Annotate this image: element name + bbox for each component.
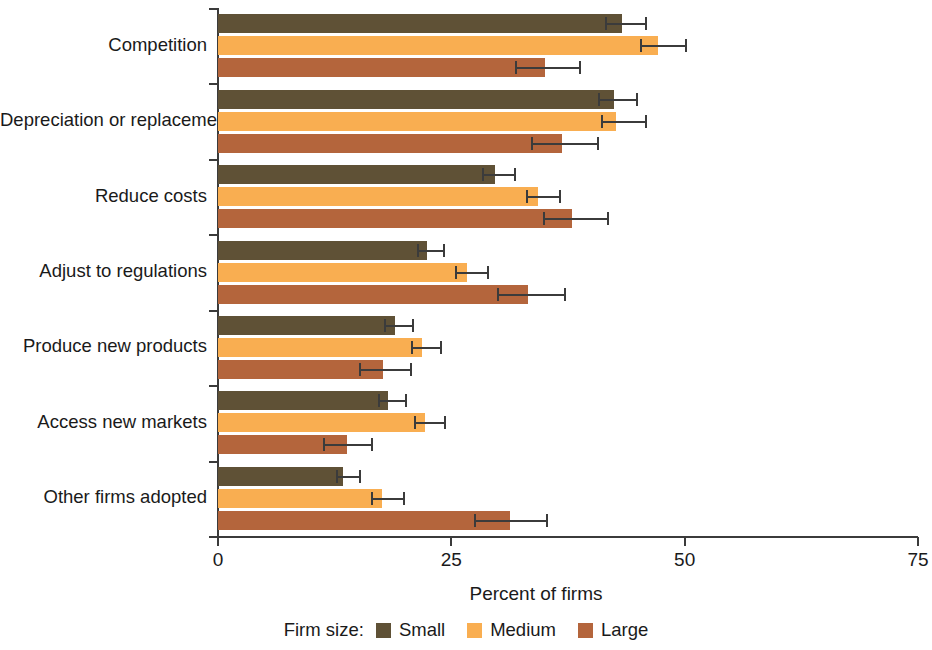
legend-item-large: Large [578,619,648,641]
bar-large [218,134,562,153]
error-bar-cap-high [579,61,581,74]
bar-medium [218,338,422,357]
category-label: Access new markets [0,411,207,433]
bar-large [218,209,572,228]
x-axis-tick-label: 50 [674,549,695,571]
error-bar-cap-high [405,394,407,407]
legend-swatch-medium [467,623,482,638]
x-axis-tick [450,537,452,546]
legend-title: Firm size: [284,619,364,641]
y-axis-tick [209,234,218,236]
bar-chart-figure: CompetitionDepreciation or replacementRe… [0,0,932,650]
error-bar-cap-high [410,363,412,376]
x-axis-tick [917,537,919,546]
error-bar-cap-high [487,266,489,279]
error-bar-cap-high [607,212,609,225]
category-label: Other firms adopted [0,486,207,508]
x-axis-tick [217,537,219,546]
error-bar-cap-high [359,470,361,483]
x-axis-title-text: Percent of firms [469,583,602,604]
legend-item-small: Small [376,619,445,641]
category-label: Competition [0,34,207,56]
legend-label: Small [399,619,445,641]
bar-medium [218,187,538,206]
x-axis-tick [684,537,686,546]
bar-small [218,391,388,410]
y-axis-tick [209,385,218,387]
bar-medium [218,489,382,508]
bar-medium [218,36,658,55]
error-bar-cap-high [685,39,687,52]
legend-label: Large [601,619,648,641]
error-bar-cap-high [645,115,647,128]
bar-small [218,165,495,184]
y-axis-tick [209,461,218,463]
x-axis-tick-label: 0 [213,549,224,571]
error-bar-cap-high [564,288,566,301]
y-axis-tick [209,83,218,85]
plot-area [218,8,918,536]
x-axis-title: Percent of firms [0,583,932,605]
y-axis-tick [209,159,218,161]
error-bar-cap-high [443,244,445,257]
error-bar-cap-high [412,319,414,332]
legend-items: SmallMediumLarge [376,619,648,641]
bar-small [218,241,427,260]
bar-small [218,14,622,33]
error-bar-cap-high [514,168,516,181]
error-bar-cap-high [440,341,442,354]
legend-item-medium: Medium [467,619,556,641]
category-label: Reduce costs [0,185,207,207]
legend-label: Medium [490,619,556,641]
category-label: Adjust to regulations [0,260,207,282]
bar-medium [218,413,425,432]
bar-medium [218,112,616,131]
category-label: Depreciation or replacement [0,109,207,131]
error-bar-cap-high [444,416,446,429]
error-bar-cap-high [546,514,548,527]
error-bar-cap-high [559,190,561,203]
legend-swatch-small [376,623,391,638]
error-bar-cap-high [636,93,638,106]
x-axis-tick-label: 25 [441,549,462,571]
bar-small [218,316,395,335]
error-bar-cap-high [645,17,647,30]
legend-swatch-large [578,623,593,638]
bar-medium [218,263,467,282]
error-bar-cap-high [403,492,405,505]
bar-large [218,435,347,454]
bar-large [218,360,383,379]
legend: Firm size: SmallMediumLarge [0,619,932,641]
bar-small [218,90,614,109]
y-axis-tick [209,310,218,312]
bar-large [218,58,545,77]
error-bar-cap-high [597,137,599,150]
x-axis-tick-label: 75 [907,549,928,571]
bar-small [218,467,343,486]
y-axis-tick [209,8,218,10]
category-label: Produce new products [0,335,207,357]
error-bar-cap-high [371,438,373,451]
x-axis-line [217,536,918,538]
bar-large [218,511,510,530]
bar-large [218,285,528,304]
